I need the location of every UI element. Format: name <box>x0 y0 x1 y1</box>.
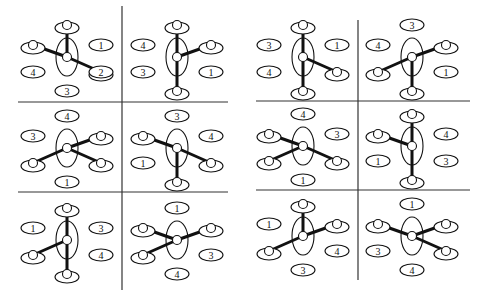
position-label: 1 <box>99 40 104 51</box>
position-label: 4 <box>209 131 214 142</box>
position-label: 3 <box>267 40 272 51</box>
atom-circle <box>63 270 72 279</box>
center-atom <box>63 53 72 62</box>
position-label: 4 <box>267 67 272 78</box>
diagram-cell: 341 <box>366 19 458 100</box>
position-label: 4 <box>301 109 306 120</box>
atom-circle <box>408 176 417 185</box>
center-atom <box>408 53 417 62</box>
position-label: 3 <box>99 223 104 234</box>
position-label: 2 <box>99 67 104 78</box>
position-label: 1 <box>267 219 272 230</box>
atom-circle <box>207 224 216 233</box>
position-label: 1 <box>335 40 340 51</box>
atom-circle <box>265 157 274 166</box>
atom-circle <box>333 68 342 77</box>
atom-circle <box>408 87 417 96</box>
atom-circle <box>299 87 308 96</box>
position-label: 3 <box>65 86 70 97</box>
atom-circle <box>442 220 451 229</box>
diagram-cell: 431 <box>257 108 349 186</box>
center-atom <box>63 236 72 245</box>
atom-circle <box>139 251 148 260</box>
position-label: 4 <box>444 129 449 140</box>
position-label: 3 <box>410 20 415 31</box>
diagram-cell: 134 <box>366 198 458 276</box>
atom-circle <box>265 130 274 139</box>
diagram-cell: 431 <box>21 110 113 188</box>
position-label: 4 <box>65 111 70 122</box>
atom-circle <box>265 247 274 256</box>
atom-circle <box>63 204 72 213</box>
position-label: 3 <box>444 156 449 167</box>
position-label: 3 <box>301 265 306 276</box>
center-atom <box>299 232 308 241</box>
position-label: 3 <box>335 129 340 140</box>
atom-circle <box>173 87 182 96</box>
atom-circle <box>29 251 38 260</box>
diagram-cell: 134 <box>131 202 223 280</box>
diagram-cell: 1234 <box>21 21 113 98</box>
position-label: 4 <box>410 265 415 276</box>
atom-circle <box>29 41 38 50</box>
center-atom <box>299 53 308 62</box>
center-atom <box>63 144 72 153</box>
position-label: 3 <box>209 250 214 261</box>
position-label: 1 <box>65 177 70 188</box>
atom-circle <box>139 224 148 233</box>
atom-circle <box>442 247 451 256</box>
atom-circle <box>442 41 451 50</box>
atom-circle <box>299 21 308 30</box>
center-atom <box>408 142 417 151</box>
atom-circle <box>97 132 106 141</box>
position-label: 1 <box>301 175 306 186</box>
position-label: 4 <box>141 40 146 51</box>
position-label: 3 <box>141 67 146 78</box>
atom-circle <box>139 132 148 141</box>
stereo-diagram: 1234431431341134134314341431413143134 <box>0 0 487 296</box>
atom-circle <box>374 220 383 229</box>
diagram-cell: 431 <box>131 21 223 101</box>
cells-layer: 1234431431341134134314341431413143134 <box>21 19 458 283</box>
atom-circle <box>333 157 342 166</box>
atom-circle <box>207 159 216 168</box>
atom-circle <box>173 21 182 30</box>
position-label: 3 <box>376 246 381 257</box>
atom-circle <box>207 41 216 50</box>
diagram-cell: 143 <box>257 200 349 277</box>
center-atom <box>299 142 308 151</box>
atom-circle <box>63 21 72 30</box>
position-label: 1 <box>410 199 415 210</box>
position-label: 1 <box>376 156 381 167</box>
atom-circle <box>299 200 308 209</box>
center-atom <box>173 236 182 245</box>
position-label: 4 <box>31 67 36 78</box>
position-label: 4 <box>376 40 381 51</box>
position-label: 1 <box>209 67 214 78</box>
diagram-cell: 341 <box>131 110 223 191</box>
position-label: 4 <box>175 269 180 280</box>
atom-circle <box>333 220 342 229</box>
position-label: 3 <box>175 111 180 122</box>
atom-circle <box>29 159 38 168</box>
atom-circle <box>408 110 417 119</box>
center-atom <box>173 53 182 62</box>
position-label: 4 <box>99 250 104 261</box>
atom-circle <box>97 159 106 168</box>
position-label: 4 <box>335 246 340 257</box>
position-label: 1 <box>444 67 449 78</box>
center-atom <box>408 232 417 241</box>
center-atom <box>173 144 182 153</box>
position-label: 1 <box>31 223 36 234</box>
position-label: 3 <box>31 131 36 142</box>
atom-circle <box>173 178 182 187</box>
diagram-cell: 134 <box>21 204 113 284</box>
atom-circle <box>374 130 383 139</box>
atom-circle <box>374 68 383 77</box>
diagram-cell: 413 <box>366 110 458 190</box>
position-label: 1 <box>175 203 180 214</box>
position-label: 1 <box>141 158 146 169</box>
diagram-cell: 314 <box>257 21 349 101</box>
